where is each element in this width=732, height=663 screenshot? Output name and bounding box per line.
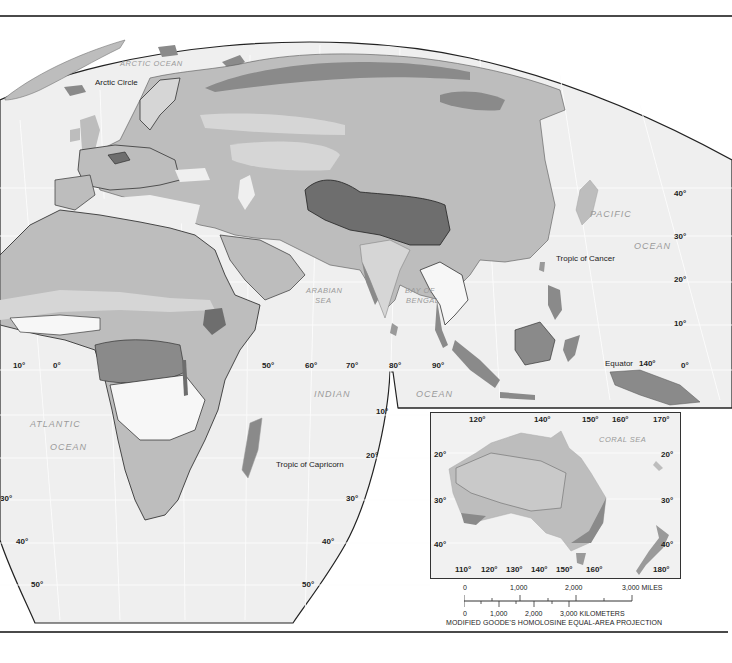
australia-inset: 120° 140° 150° 160° 170° CORAL SEA 20° 3…	[430, 412, 681, 579]
pacific-label: PACIFIC	[590, 210, 632, 219]
lat-label-30n: 30°	[674, 233, 686, 241]
lon-label-10w: 10°	[13, 362, 25, 370]
lon-label-0: 0°	[53, 362, 61, 370]
lat-label-40n: 40°	[674, 190, 686, 198]
lat-label-50s-left: 50°	[31, 581, 43, 589]
tasmania	[576, 553, 586, 565]
scale-km-2000: 2,000	[525, 610, 543, 617]
arctic-circle-label: Arctic Circle	[95, 79, 138, 87]
inset-lat-right-40: 40°	[661, 541, 673, 549]
lat-label-30s-right: 30°	[346, 495, 358, 503]
projection-caption: MODIFIED GOODE'S HOMOLOSINE EQUAL-AREA P…	[446, 619, 662, 626]
bay-of-bengal-label-2: BENGAL	[406, 297, 439, 305]
inset-lon-top-160: 160°	[612, 416, 629, 424]
arabian-sea-label-2: SEA	[315, 297, 332, 305]
lat-label-10s: 10°	[376, 408, 388, 416]
inset-lon-top-150: 150°	[582, 416, 599, 424]
lat-label-10n: 10°	[674, 320, 686, 328]
inset-lat-left-30: 30°	[434, 497, 446, 505]
inset-lon-bottom-110: 110°	[455, 566, 471, 574]
new-caledonia	[653, 461, 663, 471]
lon-label-140: 140°	[639, 360, 656, 368]
lat-label-20n: 20°	[674, 276, 686, 284]
bay-of-bengal-label-1: BAY OF	[405, 287, 435, 295]
indian-ocean-label: OCEAN	[416, 390, 453, 399]
lon-label-50: 50°	[262, 362, 274, 370]
scale-bar-ruler	[464, 594, 644, 608]
scale-km-0: 0	[463, 610, 467, 617]
inset-lon-bottom-120: 120°	[481, 566, 498, 574]
lat-label-40s-right: 40°	[322, 538, 334, 546]
inset-lat-left-20: 20°	[434, 451, 446, 459]
black-sea	[175, 168, 210, 182]
inset-lon-bottom-150: 150°	[556, 566, 573, 574]
inset-lat-right-20: 20°	[661, 451, 673, 459]
atlantic-ocean-label: OCEAN	[50, 443, 87, 452]
inset-lon-bottom-160: 160°	[586, 566, 603, 574]
lon-label-70: 70°	[346, 362, 358, 370]
inset-lon-top-170: 170°	[653, 416, 670, 424]
scale-miles-1000: 1,000	[510, 584, 528, 591]
lat-label-20s: 20°	[366, 452, 378, 460]
arabian-sea-label-1: ARABIAN	[306, 287, 342, 295]
inset-lon-bottom-130: 130°	[506, 566, 523, 574]
inset-lat-left-40: 40°	[434, 541, 446, 549]
scale-bar: 0 1,000 2,000 3,000 MILES 0 1,000 2,000 …	[460, 584, 640, 618]
arctic-ocean-label: ARCTIC OCEAN	[120, 60, 183, 68]
lon-label-80: 80°	[389, 362, 401, 370]
atlantic-label: ATLANTIC	[30, 420, 81, 429]
equator-label: Equator	[605, 360, 633, 368]
scale-miles-3000: 3,000 MILES	[622, 584, 662, 591]
inset-lon-bottom-180: 180°	[653, 566, 670, 574]
inset-lon-bottom-140: 140°	[531, 566, 548, 574]
lat-label-30s-left: 30°	[0, 495, 12, 503]
lat-label-0: 0°	[681, 362, 689, 370]
indian-label: INDIAN	[314, 390, 351, 399]
lon-label-90: 90°	[432, 362, 444, 370]
scale-miles-2000: 2,000	[565, 584, 583, 591]
coral-sea-label: CORAL SEA	[599, 436, 646, 444]
inset-lon-top-140: 140°	[534, 416, 551, 424]
lat-label-50s-right: 50°	[302, 581, 314, 589]
lon-label-60: 60°	[305, 362, 317, 370]
inset-lat-right-30: 30°	[661, 497, 673, 505]
scale-km-1000: 1,000	[490, 610, 508, 617]
tropic-of-capricorn-label: Tropic of Capricorn	[276, 461, 344, 469]
inset-lon-top-120: 120°	[469, 416, 486, 424]
lat-label-40s-left: 40°	[16, 538, 28, 546]
scale-miles-0: 0	[463, 584, 467, 591]
pacific-ocean-label: OCEAN	[634, 242, 671, 251]
scale-km-3000: 3,000 KILOMETERS	[560, 610, 625, 617]
ireland	[70, 128, 80, 142]
tropic-of-cancer-label: Tropic of Cancer	[556, 255, 615, 263]
